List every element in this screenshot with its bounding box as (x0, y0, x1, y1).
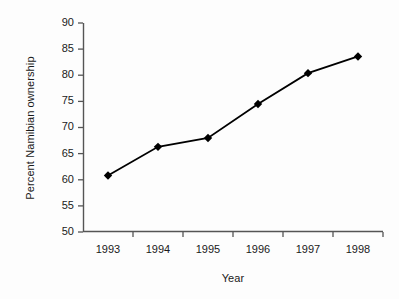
x-tick-label-1998: 1998 (333, 243, 383, 255)
x-tick-marks (133, 232, 383, 237)
y-tick-label-80: 80 (48, 68, 74, 80)
y-tick-label-85: 85 (48, 42, 74, 54)
y-tick-marks (78, 23, 83, 232)
y-axis-title: Percent Namibian ownership (24, 28, 36, 228)
y-tick-label-75: 75 (48, 94, 74, 106)
data-point-markers (104, 52, 362, 180)
y-tick-label-65: 65 (48, 147, 74, 159)
y-tick-label-60: 60 (48, 173, 74, 185)
y-tick-label-90: 90 (48, 16, 74, 28)
x-tick-label-1996: 1996 (233, 243, 283, 255)
data-series-line (108, 56, 358, 175)
data-point-1998 (354, 52, 362, 60)
x-tick-label-1997: 1997 (283, 243, 333, 255)
data-point-1993 (104, 171, 112, 179)
x-axis-title: Year (83, 272, 383, 284)
y-tick-label-55: 55 (48, 199, 74, 211)
data-point-1994 (154, 143, 162, 151)
x-tick-label-1993: 1993 (83, 243, 133, 255)
data-point-1997 (304, 69, 312, 77)
y-tick-label-70: 70 (48, 120, 74, 132)
x-tick-label-1994: 1994 (133, 243, 183, 255)
line-chart: 90 85 80 75 70 65 60 55 50 1993 1994 199… (0, 0, 399, 299)
y-tick-label-50: 50 (48, 225, 74, 237)
x-tick-label-1995: 1995 (183, 243, 233, 255)
